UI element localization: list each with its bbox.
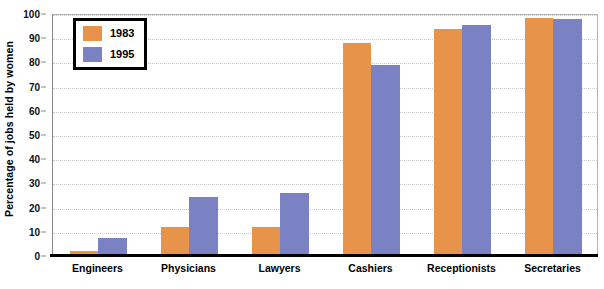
y-axis-tick-label: 20 [29, 202, 40, 213]
x-axis-baseline [50, 254, 598, 257]
y-axis-title: Percentage of jobs held by women [0, 0, 18, 258]
bar-group [161, 15, 217, 256]
bar-group [252, 15, 308, 256]
cropped-title-remnant [150, 0, 480, 4]
chart-legend: 19831995 [73, 18, 147, 70]
bar-physicians-1983 [161, 227, 189, 256]
x-axis-category-labels: EngineersPhysiciansLawyersCashiersRecept… [52, 262, 598, 282]
y-axis-tick-labels: 0102030405060708090100 [18, 14, 46, 256]
y-axis-tick-mark [41, 135, 46, 136]
y-axis-tick-label: 80 [29, 57, 40, 68]
bar-lawyers-1995 [280, 193, 308, 256]
legend-label-1983: 1983 [110, 28, 134, 39]
bar-secretaries-1983 [525, 18, 553, 256]
bar-cashiers-1983 [343, 43, 371, 256]
legend-entry-1983: 1983 [83, 26, 134, 41]
legend-swatch-1995 [83, 47, 102, 62]
legend-label-1995: 1995 [110, 49, 134, 60]
x-axis-label-lawyers: Lawyers [258, 262, 300, 274]
bar-physicians-1995 [189, 197, 217, 256]
bar-chart-figure: Percentage of jobs held by women 0102030… [0, 0, 604, 289]
x-axis-label-engineers: Engineers [72, 262, 123, 274]
y-axis-tick-label: 40 [29, 154, 40, 165]
bar-lawyers-1983 [252, 227, 280, 256]
bar-group [343, 15, 399, 256]
x-axis-label-physicians: Physicians [161, 262, 216, 274]
y-axis-tick-mark [41, 207, 46, 208]
y-axis-tick-mark [41, 256, 46, 257]
bar-receptionists-1995 [462, 25, 490, 256]
y-axis-tick-mark [41, 86, 46, 87]
y-axis-title-text: Percentage of jobs held by women [3, 41, 15, 217]
y-axis-tick-label: 0 [34, 251, 40, 262]
y-axis-tick-label: 10 [29, 226, 40, 237]
x-axis-label-cashiers: Cashiers [348, 262, 392, 274]
y-axis-tick-label: 90 [29, 33, 40, 44]
y-axis-tick-mark [41, 38, 46, 39]
y-axis-tick-mark [41, 110, 46, 111]
y-axis-tick-label: 30 [29, 178, 40, 189]
y-axis-tick-label: 60 [29, 105, 40, 116]
y-axis-tick-mark [41, 183, 46, 184]
bar-group [525, 15, 581, 256]
x-axis-label-secretaries: Secretaries [524, 262, 581, 274]
y-axis-tick-mark [41, 159, 46, 160]
bar-group [434, 15, 490, 256]
y-axis-tick-label: 50 [29, 130, 40, 141]
legend-entry-1995: 1995 [83, 47, 134, 62]
y-axis-tick-mark [41, 14, 46, 15]
y-axis-tick-mark [41, 231, 46, 232]
y-axis-tick-label: 100 [23, 9, 40, 20]
x-axis-label-receptionists: Receptionists [427, 262, 496, 274]
bar-secretaries-1995 [553, 19, 581, 256]
y-axis-tick-label: 70 [29, 81, 40, 92]
legend-swatch-1983 [83, 26, 102, 41]
bar-cashiers-1995 [371, 65, 399, 256]
y-axis-tick-mark [41, 62, 46, 63]
bar-receptionists-1983 [434, 29, 462, 256]
